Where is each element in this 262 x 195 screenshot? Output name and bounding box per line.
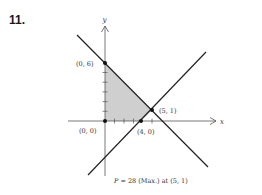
feasible-region-graph: x y (0, 6) (0, 0) (4, 0) (5, 1) P = 28 (…: [0, 0, 262, 195]
caption: P = 28 (Max.) at (5, 1): [113, 177, 188, 185]
vertex-5-1: [150, 108, 154, 112]
feasible-region: [105, 63, 152, 121]
vertex-label-4-0: (4, 0): [137, 128, 155, 136]
vertex-label-5-1: (5, 1): [159, 107, 177, 115]
vertex-4-0: [139, 119, 143, 123]
caption-text: = 28 (Max.) at (5, 1): [118, 177, 188, 185]
vertex-0-0: [103, 119, 107, 123]
vertex-0-6: [103, 61, 107, 65]
constraint-line-x-plus-y-6: [77, 35, 208, 167]
vertex-label-0-6: (0, 6): [76, 60, 94, 68]
x-axis-label: x: [220, 118, 224, 126]
vertex-label-0-0: (0, 0): [79, 127, 97, 135]
y-axis-label: y: [102, 16, 108, 24]
